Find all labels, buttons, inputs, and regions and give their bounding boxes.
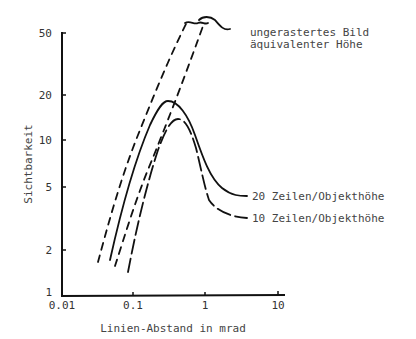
x-label-0.01: 0.01: [49, 299, 76, 312]
curve-10-zeilen: [128, 119, 247, 272]
y-label-10: 10: [39, 134, 52, 147]
curve-20-zeilen: [110, 101, 247, 260]
x-tick-labels: 0.01 0.1 1 10: [49, 299, 285, 312]
y-label-50: 50: [39, 27, 52, 40]
unrastered-top-squiggle: [185, 17, 230, 29]
axes: [61, 32, 285, 296]
y-label-1: 1: [45, 286, 52, 299]
x-label-10: 10: [271, 299, 284, 312]
annotation-curve-10: 10 Zeilen/Objekthöhe: [252, 212, 384, 225]
y-label-2: 2: [45, 244, 52, 257]
visibility-chart: 50 20 10 5 2 1 0.01 0.1 1 10 Linien-Abst…: [0, 0, 416, 339]
annotation-unrastered-line2: äquivalenter Höhe: [250, 38, 363, 51]
y-label-20: 20: [39, 89, 52, 102]
unrastered-curve-inner: [115, 26, 203, 266]
y-tick-labels: 50 20 10 5 2 1: [39, 27, 52, 299]
y-label-5: 5: [45, 181, 52, 194]
x-label-0.1: 0.1: [123, 299, 143, 312]
x-axis-title: Linien-Abstand in mrad: [100, 322, 246, 335]
y-axis-title: Sichtbarkeit: [22, 124, 35, 203]
x-axis-line: [61, 295, 285, 296]
annotation-curve-20: 20 Zeilen/Objekthöhe: [252, 190, 384, 203]
x-label-1: 1: [202, 299, 209, 312]
